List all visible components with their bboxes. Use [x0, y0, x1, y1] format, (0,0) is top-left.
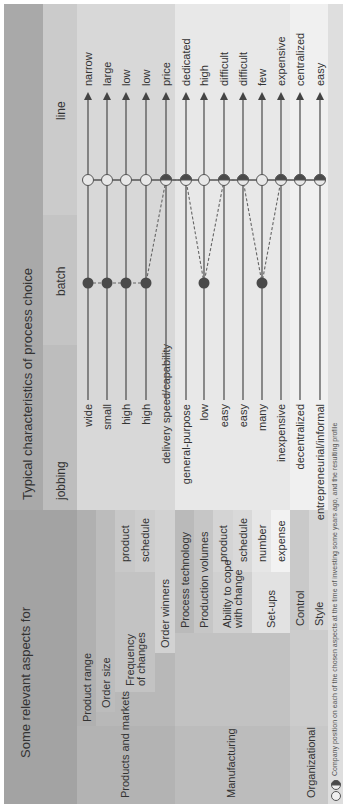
- profile-lines-svg: [0, 0, 343, 808]
- process-choice-diagram: Some relevant aspects for Typical charac…: [0, 0, 343, 808]
- legend-caption: Company position on each of the chosen a…: [331, 423, 338, 776]
